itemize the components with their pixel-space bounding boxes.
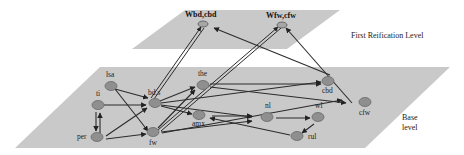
first-reification-plane: [132, 10, 340, 49]
node-cfw[interactable]: cfw: [359, 98, 371, 118]
label-lsa: lsa: [106, 70, 115, 79]
base-level-label-line2: level: [402, 123, 418, 132]
label-cbd: cbd: [322, 86, 333, 95]
node-cbd[interactable]: cbd: [322, 77, 334, 96]
label-nl: nl: [265, 101, 271, 110]
label-rul: rul: [308, 132, 316, 141]
label-per: per: [77, 132, 87, 141]
label-amx: amx: [192, 119, 205, 128]
base-level-label-line1: Base: [402, 113, 418, 122]
first-reification-level-label: First Reification Level: [351, 31, 424, 40]
label-wl: wl: [315, 101, 323, 110]
reification-diagram: Wbd,cbd Wfw,cfw lsa ti per bd.s fw the a…: [0, 0, 464, 155]
label-cfw: cfw: [359, 108, 371, 117]
reified-label-wfw: Wfw,cfw: [266, 11, 296, 20]
node-amx[interactable]: amx: [192, 111, 205, 129]
label-bds: bd.s: [148, 88, 160, 97]
label-the: the: [198, 69, 208, 78]
label-ti: ti: [96, 89, 100, 98]
label-fw: fw: [149, 138, 157, 147]
reified-label-wbd: Wbd,cbd: [185, 10, 217, 19]
